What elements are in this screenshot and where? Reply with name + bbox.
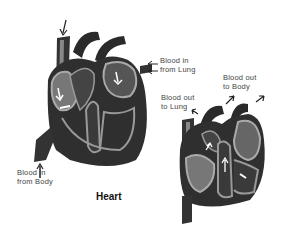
label-blood-in-from-lung: Blood in from Lung (160, 56, 196, 74)
label-blood-in-from-body: Blood in from Body (17, 168, 53, 186)
label-line-2: from Lung (160, 65, 196, 74)
label-blood-out-to-lung: Blood out to Lung (161, 93, 195, 111)
label-line-1: Blood in (17, 168, 53, 177)
diagram-title: Heart (96, 191, 122, 202)
label-line-2: to Lung (161, 102, 195, 111)
label-line-1: Blood out (161, 93, 195, 102)
label-blood-out-to-body: Blood out to Body (223, 73, 257, 91)
label-line-2: to Body (223, 82, 257, 91)
left-heart-illustration (34, 20, 158, 178)
heart-diagram (0, 0, 301, 230)
label-line-1: Blood in (160, 56, 196, 65)
right-heart-illustration (180, 96, 265, 224)
label-line-2: from Body (17, 177, 53, 186)
label-line-1: Blood out (223, 73, 257, 82)
